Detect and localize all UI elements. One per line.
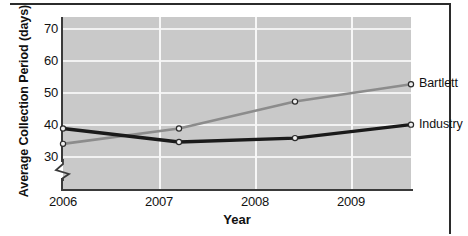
data-point-industry-2009: [408, 122, 413, 127]
data-point-bartlett-2009: [408, 82, 413, 87]
series-layer: [0, 0, 468, 236]
data-point-bartlett-2007: [176, 126, 181, 131]
data-point-bartlett-2006: [60, 141, 65, 146]
series-label-bartlett: Bartlett: [419, 76, 458, 90]
series-label-industry: Industry: [419, 117, 463, 131]
data-point-industry-2006: [60, 126, 65, 131]
data-point-industry-2008: [292, 136, 297, 141]
line-industry: [63, 125, 411, 142]
data-point-bartlett-2008: [292, 99, 297, 104]
data-point-industry-2007: [176, 139, 181, 144]
